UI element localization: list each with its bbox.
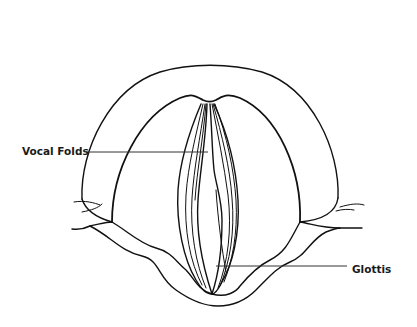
right-ary-upper bbox=[340, 204, 364, 207]
glottis-label: Glottis bbox=[352, 264, 391, 275]
right-ary-lower bbox=[336, 209, 354, 211]
outer-arch bbox=[82, 65, 338, 199]
right-outer-connector bbox=[300, 198, 338, 222]
larynx-illustration bbox=[0, 0, 417, 327]
right-base bbox=[300, 222, 362, 228]
left-ary-upper bbox=[74, 201, 100, 205]
inner-wavy-bottom bbox=[112, 222, 300, 295]
left-base bbox=[72, 222, 112, 229]
left-vocal-fold-inner bbox=[198, 104, 212, 294]
vocal-folds-label: Vocal Folds bbox=[22, 146, 89, 157]
